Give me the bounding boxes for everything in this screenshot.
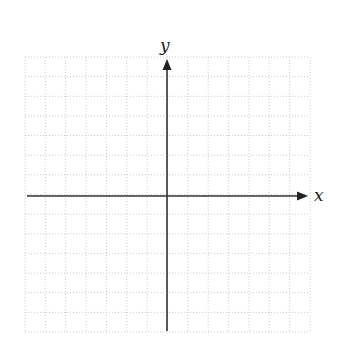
coordinate-plane: x y <box>0 0 337 347</box>
y-axis-arrow-icon <box>163 59 172 70</box>
x-axis-label: x <box>314 185 324 205</box>
y-axis-label: y <box>159 35 170 55</box>
x-axis-arrow-icon <box>297 192 308 201</box>
